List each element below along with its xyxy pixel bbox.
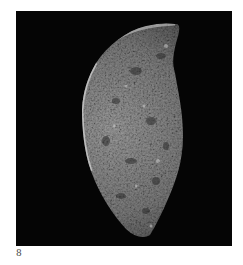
figure-number: 8 — [16, 248, 22, 258]
stone-fragment-image — [16, 11, 232, 246]
stone-shape — [16, 11, 232, 246]
photo-plate — [16, 11, 232, 246]
